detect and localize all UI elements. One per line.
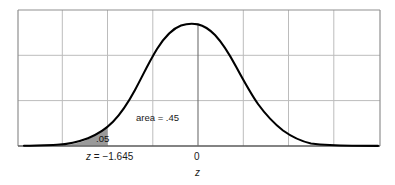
center-tick-label: 0 xyxy=(194,152,200,162)
normal-distribution-figure: area = .45 .05 z = −1.645 0 z xyxy=(0,0,395,185)
critical-value-label: z = −1.645 xyxy=(86,152,133,162)
plot-background xyxy=(18,10,380,146)
tail-area-label: .05 xyxy=(96,134,109,144)
x-axis-title: z xyxy=(195,168,200,178)
area-annotation-label: area = .45 xyxy=(136,113,179,123)
